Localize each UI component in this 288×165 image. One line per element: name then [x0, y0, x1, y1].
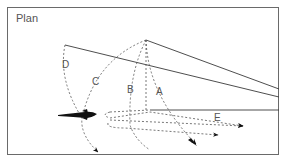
dashed-arcs	[63, 40, 196, 152]
arc-b	[130, 40, 150, 150]
upper-boundary-line	[65, 45, 279, 97]
solid-lines	[65, 40, 279, 110]
plan-diagram: Plan	[0, 0, 288, 165]
trajectory-lower	[108, 123, 218, 135]
label-b: B	[127, 84, 134, 95]
arc-d	[63, 45, 82, 118]
label-c: C	[92, 76, 99, 87]
label-a: A	[156, 86, 163, 97]
apex-boundary-line	[146, 40, 279, 89]
dashed-trajectories	[105, 110, 243, 135]
label-e: E	[214, 112, 221, 123]
trajectory-e-upper	[105, 112, 243, 126]
arrowhead-icon	[188, 138, 197, 146]
label-d: D	[62, 59, 69, 70]
diagram-drawing: D C B A E	[0, 0, 288, 165]
